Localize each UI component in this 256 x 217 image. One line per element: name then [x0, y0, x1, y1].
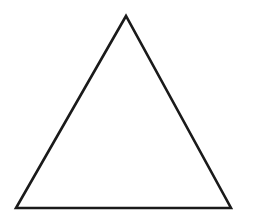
triangle-shape	[16, 16, 231, 208]
triangle-diagram	[0, 0, 256, 217]
